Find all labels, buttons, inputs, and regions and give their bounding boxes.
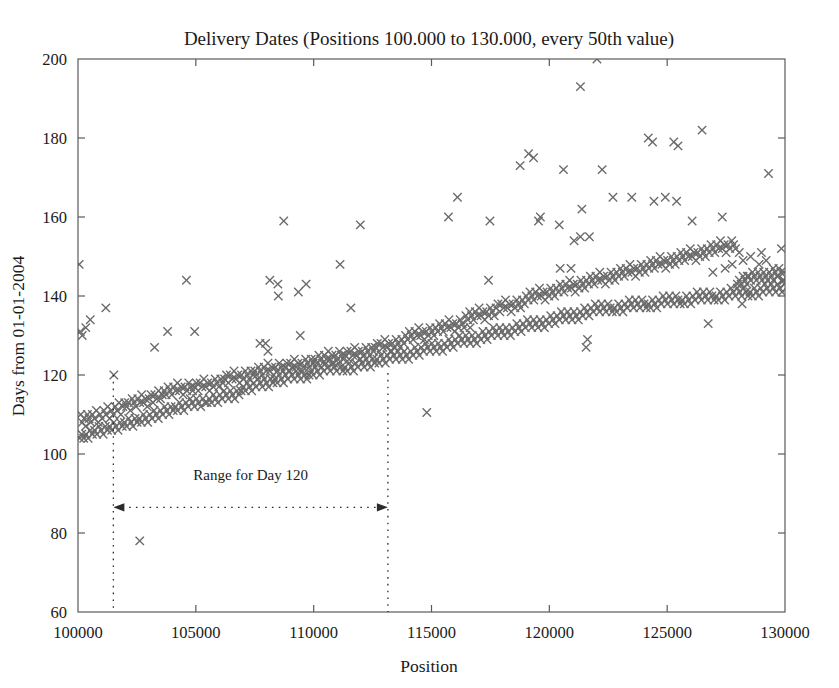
- data-point-marker: [86, 316, 94, 324]
- data-point-marker: [136, 537, 144, 545]
- range-arrowhead-left: [113, 503, 124, 511]
- x-axis-label: Position: [400, 656, 458, 676]
- data-point-marker: [582, 343, 590, 351]
- data-point-marker: [609, 193, 617, 201]
- data-point-marker: [266, 276, 274, 284]
- y-tick-label: 60: [51, 603, 68, 622]
- range-annotation-label: Range for Day 120: [193, 467, 308, 483]
- data-point-marker: [190, 327, 198, 335]
- data-point-marker: [484, 276, 492, 284]
- data-point-marker: [274, 292, 282, 300]
- y-tick-label: 160: [42, 208, 67, 227]
- data-point-marker: [296, 331, 304, 339]
- data-point-marker: [163, 327, 171, 335]
- figure-container: 1000001050001100001150001200001250001300…: [0, 0, 839, 688]
- data-point-marker: [578, 205, 586, 213]
- y-tick-label: 140: [42, 287, 67, 306]
- x-tick-label: 105000: [171, 623, 221, 642]
- data-point-marker: [529, 154, 537, 162]
- data-point-marker: [672, 197, 680, 205]
- data-point-marker: [735, 248, 743, 256]
- x-tick-label: 100000: [53, 623, 103, 642]
- y-tick-label: 200: [42, 50, 67, 69]
- annotation-layer: Range for Day 120: [113, 373, 388, 612]
- y-tick-label: 120: [42, 366, 67, 385]
- data-point-marker: [709, 268, 717, 276]
- data-point-marker: [182, 276, 190, 284]
- data-point-marker: [150, 343, 158, 351]
- data-point-marker: [75, 260, 83, 268]
- data-point-marker: [688, 217, 696, 225]
- y-axis-label: Days from 01-01-2004: [8, 256, 28, 417]
- data-point-marker: [746, 252, 754, 260]
- data-point-marker: [648, 138, 656, 146]
- plot-frame-layer: [78, 59, 785, 612]
- x-tick-label: 110000: [289, 623, 338, 642]
- x-tick-label: 130000: [760, 623, 810, 642]
- data-point-marker: [628, 193, 636, 201]
- x-tick-label: 120000: [525, 623, 575, 642]
- data-point-marker: [264, 347, 272, 355]
- x-tick-label: 115000: [407, 623, 456, 642]
- data-point-marker: [555, 221, 563, 229]
- data-point-marker: [423, 408, 431, 416]
- data-point-marker: [280, 217, 288, 225]
- data-point-marker: [598, 165, 606, 173]
- data-point-marker: [102, 304, 110, 312]
- y-tick-label: 100: [42, 445, 67, 464]
- data-point-marker: [567, 264, 575, 272]
- data-point-marker: [559, 165, 567, 173]
- data-point-marker: [698, 126, 706, 134]
- chart-title: Delivery Dates (Positions 100.000 to 130…: [184, 28, 674, 50]
- data-point-marker: [718, 213, 726, 221]
- data-point-marker: [704, 319, 712, 327]
- data-point-marker: [583, 335, 591, 343]
- data-point-marker: [466, 323, 474, 331]
- data-markers-layer: [75, 55, 789, 545]
- range-arrowhead-right: [377, 503, 388, 511]
- scatter-plot: 1000001050001100001150001200001250001300…: [0, 0, 839, 688]
- data-point-marker: [444, 213, 452, 221]
- data-point-marker: [294, 288, 302, 296]
- data-point-marker: [661, 193, 669, 201]
- data-point-marker: [743, 272, 751, 280]
- data-point-marker: [302, 280, 310, 288]
- data-point-marker: [356, 221, 364, 229]
- data-point-marker: [453, 193, 461, 201]
- y-tick-label: 180: [42, 129, 67, 148]
- data-point-marker: [274, 280, 282, 288]
- data-point-marker: [585, 233, 593, 241]
- data-point-marker: [117, 410, 125, 418]
- data-point-marker: [486, 217, 494, 225]
- data-point-marker: [126, 406, 134, 414]
- data-point-marker: [674, 142, 682, 150]
- data-point-marker: [650, 197, 658, 205]
- data-point-marker: [82, 323, 90, 331]
- data-point-marker: [347, 304, 355, 312]
- data-point-marker: [738, 300, 746, 308]
- axis-ticks-layer: [78, 59, 785, 612]
- y-tick-label: 80: [51, 524, 68, 543]
- data-point-marker: [524, 150, 532, 158]
- x-tick-label: 125000: [642, 623, 692, 642]
- x-tick-labels-layer: 1000001050001100001150001200001250001300…: [53, 623, 810, 642]
- data-point-marker: [556, 264, 564, 272]
- data-point-marker: [764, 169, 772, 177]
- data-point-marker: [261, 339, 269, 347]
- data-point-marker: [576, 82, 584, 90]
- data-point-marker: [516, 161, 524, 169]
- data-point-marker: [336, 260, 344, 268]
- data-point-marker: [739, 256, 747, 264]
- data-point-marker: [757, 248, 765, 256]
- y-tick-labels-layer: 6080100120140160180200: [42, 50, 67, 622]
